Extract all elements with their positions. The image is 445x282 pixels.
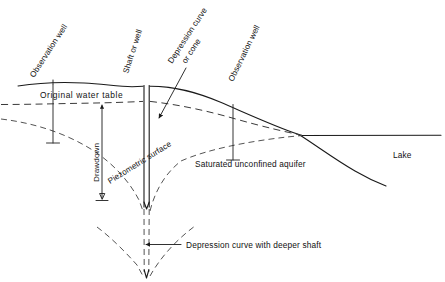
leader-depression-curve [159,68,186,118]
figure-root: Observation well Shaft or well Depressio… [0,0,445,282]
depression-curve-left-limb [1,119,143,211]
original-water-table-left [1,101,143,104]
deep-shaft-bottom-tip [144,270,149,278]
label-drawdown: Drawdown [92,143,101,182]
label-lake: Lake [393,150,412,160]
label-depression-curve-deeper-shaft: Depression curve with deeper shaft [186,240,322,250]
depression-curve-arrow [159,68,186,118]
label-original-water-table: Original water table [40,90,123,100]
ground-surface-left [18,82,143,86]
observation-well-right-structure [227,105,240,161]
shaft-or-well-structure [144,86,149,279]
original-water-table-right [150,101,302,135]
lake-bed-line [299,135,386,187]
deeper-shaft-curve-right [150,226,195,276]
label-observation-well-right: Observation well [227,24,262,83]
label-saturated-unconfined-aquifer: Saturated unconfined aquifer [195,159,306,169]
label-shaft-or-well: Shaft or well [121,28,144,74]
label-piezometric-surface: Piezometric surface [106,139,173,186]
deeper-shaft-depression-group [97,226,195,276]
well-depression-diagram: Observation well Shaft or well Depressio… [0,0,445,282]
text-label-group: Observation well Shaft or well Depressio… [28,6,412,250]
shaft-bottom-tip [144,202,149,209]
label-observation-well-left: Observation well [28,23,69,80]
deeper-shaft-curve-left [97,227,143,276]
